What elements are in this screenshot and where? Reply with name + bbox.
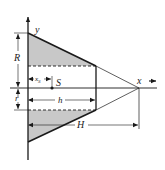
y-axis-label: y [34, 24, 40, 35]
xs-label: xS [34, 75, 41, 84]
H-label: H [76, 119, 85, 130]
h-label: h [58, 95, 63, 105]
cone-diagram: y x R r xS S h H [0, 0, 165, 170]
R-label: R [13, 52, 20, 63]
upper-cone-extension [96, 66, 139, 88]
lower-cone-extension [96, 88, 139, 110]
x-axis-label: x [136, 75, 142, 86]
centroid-point-S [50, 86, 53, 89]
S-label: S [56, 77, 61, 88]
r-label: r [15, 93, 19, 103]
diagram-canvas: y x R r xS S h H [0, 0, 165, 170]
